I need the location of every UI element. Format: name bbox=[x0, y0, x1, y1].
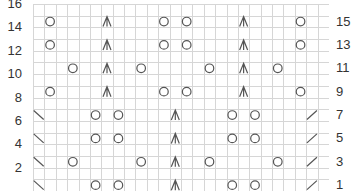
row-label-left: 2 bbox=[0, 161, 22, 175]
yarn-over-icon bbox=[251, 134, 260, 143]
central-double-decrease-icon bbox=[240, 17, 248, 27]
k2tog-decrease-icon bbox=[307, 181, 317, 190]
knitting-chart bbox=[33, 4, 329, 191]
row-label-left: 16 bbox=[0, 0, 22, 11]
yarn-over-icon bbox=[296, 17, 305, 26]
yarn-over-icon bbox=[182, 17, 191, 26]
k2tog-decrease-icon bbox=[307, 111, 317, 120]
yarn-over-icon bbox=[296, 87, 305, 96]
row-label-left: 6 bbox=[0, 114, 22, 128]
yarn-over-icon bbox=[46, 41, 55, 50]
row-label-right: 7 bbox=[336, 108, 343, 122]
yarn-over-icon bbox=[251, 181, 260, 190]
yarn-over-icon bbox=[114, 111, 123, 120]
row-label-left: 4 bbox=[0, 137, 22, 151]
yarn-over-icon bbox=[137, 64, 146, 73]
central-double-decrease-icon bbox=[171, 180, 179, 190]
row-label-left: 14 bbox=[0, 20, 22, 34]
yarn-over-icon bbox=[182, 41, 191, 50]
yarn-over-icon bbox=[273, 157, 282, 166]
row-label-right: 11 bbox=[336, 61, 350, 75]
row-label-left: 12 bbox=[0, 44, 22, 58]
yarn-over-icon bbox=[69, 64, 78, 73]
yarn-over-icon bbox=[160, 17, 169, 26]
k2tog-decrease-icon bbox=[307, 157, 317, 166]
central-double-decrease-icon bbox=[240, 63, 248, 73]
yarn-over-icon bbox=[273, 64, 282, 73]
ssk-decrease-icon bbox=[34, 134, 44, 143]
yarn-over-icon bbox=[228, 111, 237, 120]
row-label-right: 3 bbox=[336, 155, 343, 169]
yarn-over-icon bbox=[137, 157, 146, 166]
row-label-right: 9 bbox=[336, 85, 343, 99]
yarn-over-icon bbox=[46, 17, 55, 26]
row-label-right: 5 bbox=[336, 131, 343, 145]
ssk-decrease-icon bbox=[34, 111, 44, 120]
yarn-over-icon bbox=[182, 87, 191, 96]
row-label-right: 15 bbox=[336, 15, 350, 29]
yarn-over-icon bbox=[160, 41, 169, 50]
yarn-over-icon bbox=[296, 41, 305, 50]
central-double-decrease-icon bbox=[103, 40, 111, 50]
central-double-decrease-icon bbox=[103, 87, 111, 97]
central-double-decrease-icon bbox=[171, 133, 179, 143]
yarn-over-icon bbox=[69, 157, 78, 166]
yarn-over-icon bbox=[91, 181, 100, 190]
yarn-over-icon bbox=[114, 181, 123, 190]
central-double-decrease-icon bbox=[171, 157, 179, 167]
row-label-left: 10 bbox=[0, 67, 22, 81]
yarn-over-icon bbox=[228, 181, 237, 190]
row-label-right: 13 bbox=[336, 38, 350, 52]
row-label-left: 8 bbox=[0, 91, 22, 105]
yarn-over-icon bbox=[251, 111, 260, 120]
yarn-over-icon bbox=[228, 134, 237, 143]
ssk-decrease-icon bbox=[34, 181, 44, 190]
ssk-decrease-icon bbox=[34, 157, 44, 166]
central-double-decrease-icon bbox=[171, 110, 179, 120]
yarn-over-icon bbox=[160, 87, 169, 96]
central-double-decrease-icon bbox=[103, 17, 111, 27]
central-double-decrease-icon bbox=[103, 63, 111, 73]
yarn-over-icon bbox=[91, 111, 100, 120]
central-double-decrease-icon bbox=[240, 87, 248, 97]
row-label-right: 1 bbox=[336, 178, 343, 192]
chart-grid bbox=[33, 4, 329, 191]
yarn-over-icon bbox=[91, 134, 100, 143]
central-double-decrease-icon bbox=[240, 40, 248, 50]
yarn-over-icon bbox=[114, 134, 123, 143]
yarn-over-icon bbox=[46, 87, 55, 96]
k2tog-decrease-icon bbox=[307, 134, 317, 143]
yarn-over-icon bbox=[205, 64, 214, 73]
yarn-over-icon bbox=[205, 157, 214, 166]
